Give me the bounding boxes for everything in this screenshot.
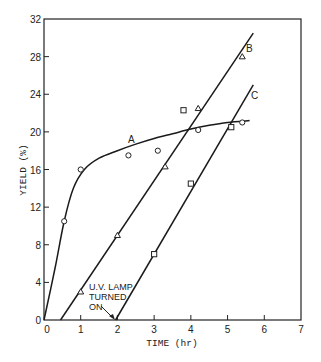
x-tick-label: 3: [151, 324, 157, 335]
x-tick-label: 2: [115, 324, 121, 335]
y-tick-label: 8: [35, 240, 41, 251]
square-marker-icon: [181, 108, 186, 113]
axis-ticks: 01234567048121620242832: [30, 14, 304, 335]
y-tick-label: 32: [30, 14, 42, 25]
x-tick-label: 1: [78, 324, 84, 335]
circle-marker-icon: [62, 219, 67, 224]
x-tick-label: 6: [262, 324, 268, 335]
triangle-marker-icon: [78, 289, 84, 294]
y-tick-label: 0: [35, 315, 41, 326]
curve-label-a: A: [128, 134, 135, 145]
y-axis-title: YIELD (%): [18, 144, 29, 195]
annotation-line-1: U.V. LAMP: [89, 282, 133, 292]
triangle-marker-icon: [239, 54, 245, 59]
circle-marker-icon: [78, 167, 83, 172]
x-tick-label: 4: [188, 324, 194, 335]
circle-marker-icon: [240, 120, 245, 125]
annotation-line-3: ON: [89, 302, 103, 312]
x-tick-label: 5: [225, 324, 231, 335]
y-tick-label: 24: [30, 89, 42, 100]
x-axis-title: TIME (hr): [146, 338, 197, 349]
circle-marker-icon: [196, 127, 201, 132]
curve-b: [61, 33, 254, 320]
x-tick-label: 0: [44, 324, 50, 335]
curve-a: [44, 121, 250, 320]
y-tick-label: 20: [30, 127, 42, 138]
curve-c: [116, 85, 254, 320]
fit-curves: [44, 33, 253, 320]
x-tick-label: 7: [298, 324, 304, 335]
square-marker-icon: [229, 125, 234, 130]
yield-vs-time-chart: 01234567048121620242832 TIME (hr) YIELD …: [0, 0, 321, 362]
triangle-marker-icon: [195, 105, 201, 110]
y-tick-label: 16: [30, 165, 42, 176]
square-marker-icon: [188, 181, 193, 186]
square-marker-icon: [152, 252, 157, 257]
y-tick-label: 28: [30, 52, 42, 63]
data-markers: [62, 54, 246, 294]
circle-marker-icon: [155, 148, 160, 153]
annotation-line-2: TURNED: [89, 292, 127, 302]
curve-label-b: B: [246, 43, 253, 54]
y-tick-label: 4: [35, 277, 41, 288]
curve-label-c: C: [251, 90, 258, 101]
circle-marker-icon: [126, 153, 131, 158]
y-tick-label: 12: [30, 202, 42, 213]
